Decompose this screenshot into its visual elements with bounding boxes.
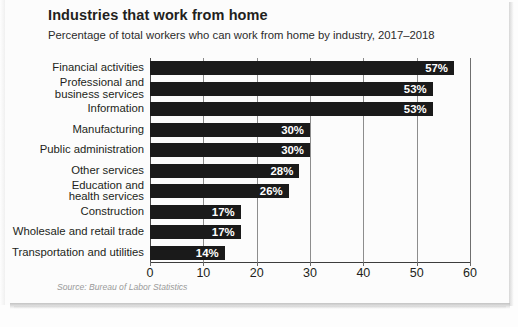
bar-row: 30%	[150, 123, 470, 137]
bar-value-label: 57%	[425, 62, 448, 74]
category-label: Information	[87, 103, 144, 115]
x-axis-label-40: 40	[356, 266, 370, 280]
category-label: Financial activities	[52, 62, 144, 74]
plot-area: 57%53%53%30%30%28%26%17%17%14%	[150, 58, 470, 263]
bar-row: 30%	[150, 143, 470, 157]
category-label-line: Professional and	[55, 77, 144, 89]
bar-row: 26%	[150, 184, 470, 198]
bar-row: 14%	[150, 246, 470, 260]
category-label-line: Manufacturing	[72, 124, 144, 136]
category-label-line: health services	[69, 191, 144, 203]
category-label: Public administration	[40, 144, 144, 156]
bar-row: 57%	[150, 61, 470, 75]
bar-value-label: 30%	[281, 144, 304, 156]
x-axis-label-0: 0	[147, 266, 154, 280]
category-label-line: Wholesale and retail trade	[13, 226, 144, 238]
bar	[150, 82, 433, 96]
category-label: Other services	[71, 165, 144, 177]
x-axis-label-30: 30	[303, 266, 317, 280]
x-axis-label-50: 50	[410, 266, 424, 280]
category-label: Professional andbusiness services	[55, 77, 144, 100]
category-label-line: Information	[87, 103, 144, 115]
bar-value-label: 30%	[281, 124, 304, 136]
bar-value-label: 17%	[212, 206, 235, 218]
x-axis-label-60: 60	[463, 266, 477, 280]
category-label-line: Financial activities	[52, 62, 144, 74]
x-axis-label-20: 20	[250, 266, 264, 280]
chart-title: Industries that work from home	[48, 7, 268, 23]
bar-row: 53%	[150, 102, 470, 116]
bar-value-label: 53%	[404, 83, 427, 95]
bar-value-label: 26%	[260, 185, 283, 197]
category-label: Construction	[81, 206, 144, 218]
category-label: Education andhealth services	[69, 180, 144, 203]
category-label: Transportation and utilities	[12, 247, 144, 259]
bar-row: 53%	[150, 82, 470, 96]
bar-value-label: 17%	[212, 226, 235, 238]
bar-row: 17%	[150, 225, 470, 239]
bar	[150, 61, 454, 75]
bar	[150, 102, 433, 116]
x-axis-label-10: 10	[196, 266, 210, 280]
bar-row: 28%	[150, 164, 470, 178]
page-edge-shadow-bottom-soft	[14, 306, 506, 309]
source-note: Source: Bureau of Labor Statistics	[57, 282, 187, 292]
page-edge-shadow-right	[509, 2, 514, 306]
gridline-60	[470, 58, 471, 263]
category-label: Manufacturing	[72, 124, 144, 136]
chart-page: Industries that work from home Percentag…	[0, 0, 518, 327]
category-label-line: Other services	[71, 165, 144, 177]
category-label-line: business services	[55, 89, 144, 101]
bar-row: 17%	[150, 205, 470, 219]
category-label-line: Construction	[81, 206, 144, 218]
category-label-line: Public administration	[40, 144, 144, 156]
bar-value-label: 28%	[271, 165, 294, 177]
page-edge-shadow-left	[0, 0, 5, 305]
category-label-line: Transportation and utilities	[12, 247, 144, 259]
category-label: Wholesale and retail trade	[13, 226, 144, 238]
bar-value-label: 14%	[196, 247, 219, 259]
chart-subtitle: Percentage of total workers who can work…	[48, 29, 435, 41]
bar-value-label: 53%	[404, 103, 427, 115]
